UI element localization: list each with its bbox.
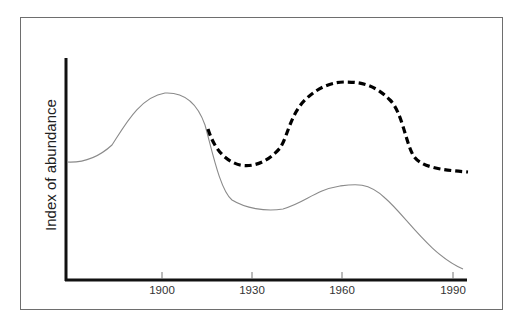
- chart-plot: [0, 0, 523, 326]
- x-ticks: [162, 272, 453, 279]
- series-thin-line: [67, 93, 463, 269]
- series-dashed-line: [208, 82, 468, 172]
- x-tick-label-1960: 1960: [329, 284, 355, 296]
- x-tick-label-1930: 1930: [239, 284, 265, 296]
- y-axis-label: Index of abundance: [42, 99, 59, 231]
- x-tick-label-1990: 1990: [440, 284, 466, 296]
- x-tick-label-1900: 1900: [149, 284, 175, 296]
